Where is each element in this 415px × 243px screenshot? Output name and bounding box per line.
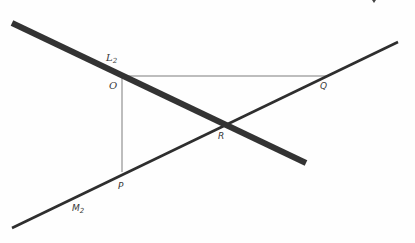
label-q: Q <box>320 81 327 91</box>
line-m2 <box>12 42 398 228</box>
label-l2: L2 <box>105 52 118 65</box>
stray-mark <box>372 0 376 3</box>
diagram-svg: L2 O Q R P M2 <box>0 0 415 243</box>
label-o: O <box>109 80 117 91</box>
geometry-diagram: L2 O Q R P M2 <box>0 0 415 243</box>
line-l2 <box>12 23 306 163</box>
label-m2: M2 <box>72 203 85 215</box>
label-p: P <box>118 181 124 191</box>
label-r: R <box>218 131 224 141</box>
